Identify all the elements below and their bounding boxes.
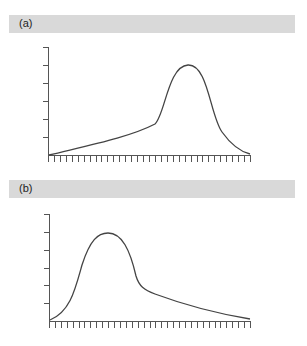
curve-b [50,233,250,320]
chart-b [0,0,307,346]
chart-b-axes [44,214,251,328]
